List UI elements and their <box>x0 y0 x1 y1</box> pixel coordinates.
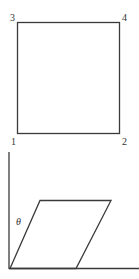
square-figure: 3 4 1 2 <box>10 12 127 147</box>
shear-angle-label: θ <box>16 216 21 227</box>
corner-label-3: 3 <box>10 12 15 23</box>
corner-label-4: 4 <box>122 12 127 23</box>
sheared-parallelogram <box>10 201 111 269</box>
corner-label-2: 2 <box>122 136 127 147</box>
sheared-figure: θ <box>9 152 139 269</box>
shear-deformation-diagram: 3 4 1 2 θ <box>0 0 139 279</box>
corner-label-1: 1 <box>11 136 16 147</box>
undeformed-square <box>18 23 120 134</box>
